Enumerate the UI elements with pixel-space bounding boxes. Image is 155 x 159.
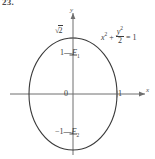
ellipse-figure: 23. x y √2 0 1 1—F1 −1—F2 x2 + y2 2 = 1 [0,0,155,159]
radical-sign-group: √2 [55,27,63,35]
x-tick-label-1: 1 [118,90,122,98]
exercise-number: 23. [2,0,14,7]
focus-2-label-group: −1—F2 [55,128,79,136]
focus-2-tick-label: −1 [55,127,64,136]
focus-2-subscript: 2 [76,132,79,138]
x-axis-label: x [146,87,149,94]
radicand: 2 [58,25,63,35]
focus-1-label-group: 1—F1 [60,49,80,57]
x-axis-arrowhead [139,92,145,97]
equation-fraction: y2 2 [116,28,124,45]
focus-1-leader: — [64,49,72,57]
equation-y-exponent: 2 [120,25,123,31]
equation-plus-sign: + [109,33,114,42]
equation-fraction-numerator: y2 [116,28,124,36]
equation-x-exponent: 2 [105,31,108,37]
focus-2-leader: — [64,128,72,136]
y-axis-label: y [70,7,73,14]
equation-fraction-denominator: 2 [116,36,124,45]
equation-equals-sign: = [126,33,131,42]
equation-right-hand-side: 1 [133,33,137,42]
origin-label: 0 [64,90,68,98]
y-tick-label-sqrt2: √2 [55,27,63,35]
focus-1-subscript: 1 [77,53,80,59]
equation-label: x2 + y2 2 = 1 [101,28,137,45]
